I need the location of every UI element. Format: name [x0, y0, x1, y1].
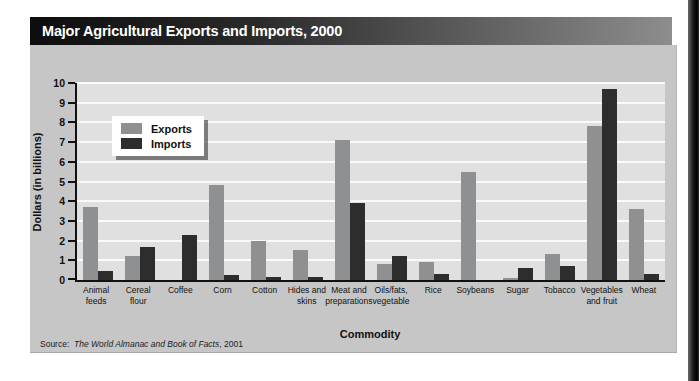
- legend: Exports Imports: [112, 116, 204, 156]
- chart-title-bar: Major Agricultural Exports and Imports, …: [30, 17, 672, 45]
- bar-exports-wheat: [629, 209, 644, 280]
- y-tick-label-2: 2: [45, 235, 65, 247]
- bar-group-coffee: [161, 83, 203, 280]
- bar-imports-animal-feeds: [98, 271, 113, 280]
- y-tick-label-0: 0: [45, 274, 65, 286]
- source-note: Source: The World Almanac and Book of Fa…: [40, 339, 243, 349]
- y-tick-label-4: 4: [45, 195, 65, 207]
- bar-group-rice: [413, 83, 455, 280]
- y-tick-6: [68, 161, 75, 163]
- bar-imports-coffee: [182, 235, 197, 280]
- bar-exports-sugar: [503, 278, 518, 280]
- bar-group-cereal-flour: [119, 83, 161, 280]
- y-tick-7: [68, 141, 75, 143]
- bar-group-meat-and-preparations: [329, 83, 371, 280]
- bar-groups: [77, 83, 665, 280]
- bar-exports-soybeans: [461, 172, 476, 280]
- bar-exports-rice: [419, 262, 434, 280]
- bar-exports-vegetables-and-fruit: [587, 126, 602, 280]
- exports-swatch-icon: [121, 123, 142, 134]
- source-italic: The World Almanac and Book of Facts: [74, 339, 219, 349]
- y-tick-1: [68, 259, 75, 261]
- bar-imports-tobacco: [560, 266, 575, 280]
- bar-exports-tobacco: [545, 254, 560, 280]
- bar-imports-sugar: [518, 268, 533, 280]
- y-tick-label-5: 5: [45, 176, 65, 188]
- legend-item-exports: Exports: [121, 121, 192, 136]
- y-tick-8: [68, 121, 75, 123]
- bar-group-vegetables-and-fruit: [581, 83, 623, 280]
- y-tick-2: [68, 240, 75, 242]
- imports-swatch-icon: [121, 138, 142, 149]
- source-prefix: Source:: [40, 339, 69, 349]
- bar-imports-wheat: [644, 274, 659, 280]
- y-tick-label-6: 6: [45, 156, 65, 168]
- bar-exports-oils-fats-vegetable: [377, 264, 392, 280]
- bar-group-cotton: [245, 83, 287, 280]
- bar-imports-cotton: [266, 277, 281, 280]
- x-label-wheat: Wheat: [615, 285, 673, 296]
- bar-exports-corn: [209, 185, 224, 280]
- book-spine-strip: [688, 0, 699, 381]
- y-tick-10: [68, 82, 75, 84]
- bar-imports-rice: [434, 274, 449, 280]
- page: Major Agricultural Exports and Imports, …: [0, 0, 700, 381]
- legend-label-imports: Imports: [151, 138, 191, 150]
- y-tick-label-10: 10: [45, 77, 65, 89]
- y-tick-label-8: 8: [45, 116, 65, 128]
- bar-imports-cereal-flour: [140, 247, 155, 280]
- chart-title: Major Agricultural Exports and Imports, …: [30, 23, 342, 39]
- bar-imports-oils-fats-vegetable: [392, 256, 407, 280]
- x-label-wrap-wheat: Wheat: [623, 285, 665, 311]
- bar-group-wheat: [623, 83, 665, 280]
- bar-group-sugar: [497, 83, 539, 280]
- y-tick-label-1: 1: [45, 254, 65, 266]
- bar-group-tobacco: [539, 83, 581, 280]
- y-tick-3: [68, 220, 75, 222]
- bar-imports-vegetables-and-fruit: [602, 89, 617, 280]
- plot-area: Exports Imports 012345678910: [75, 83, 665, 280]
- source-suffix: , 2001: [219, 339, 243, 349]
- y-tick-label-3: 3: [45, 215, 65, 227]
- bar-group-oils-fats-vegetable: [371, 83, 413, 280]
- bar-group-animal-feeds: [77, 83, 119, 280]
- bar-group-corn: [203, 83, 245, 280]
- bar-exports-meat-and-preparations: [335, 140, 350, 280]
- bar-exports-hides-and-skins: [293, 250, 308, 280]
- y-tick-5: [68, 181, 75, 183]
- bar-exports-cereal-flour: [125, 256, 140, 280]
- bar-imports-hides-and-skins: [308, 277, 323, 280]
- bar-group-hides-and-skins: [287, 83, 329, 280]
- bar-exports-animal-feeds: [83, 207, 98, 280]
- y-tick-9: [68, 102, 75, 104]
- bar-group-soybeans: [455, 83, 497, 280]
- bar-imports-corn: [224, 275, 239, 280]
- y-tick-label-9: 9: [45, 97, 65, 109]
- legend-label-exports: Exports: [151, 123, 192, 135]
- y-tick-0: [68, 278, 75, 280]
- y-tick-4: [68, 200, 75, 202]
- legend-item-imports: Imports: [121, 136, 192, 151]
- y-tick-label-7: 7: [45, 136, 65, 148]
- chart-panel: Dollars (in billions) Exports Imports 01…: [30, 45, 677, 353]
- bar-exports-cotton: [251, 241, 266, 280]
- x-axis-labels: Animal feedsCereal flourCoffeeCornCotton…: [75, 285, 665, 311]
- y-axis-title: Dollars (in billions): [31, 132, 43, 231]
- bar-imports-meat-and-preparations: [350, 203, 365, 280]
